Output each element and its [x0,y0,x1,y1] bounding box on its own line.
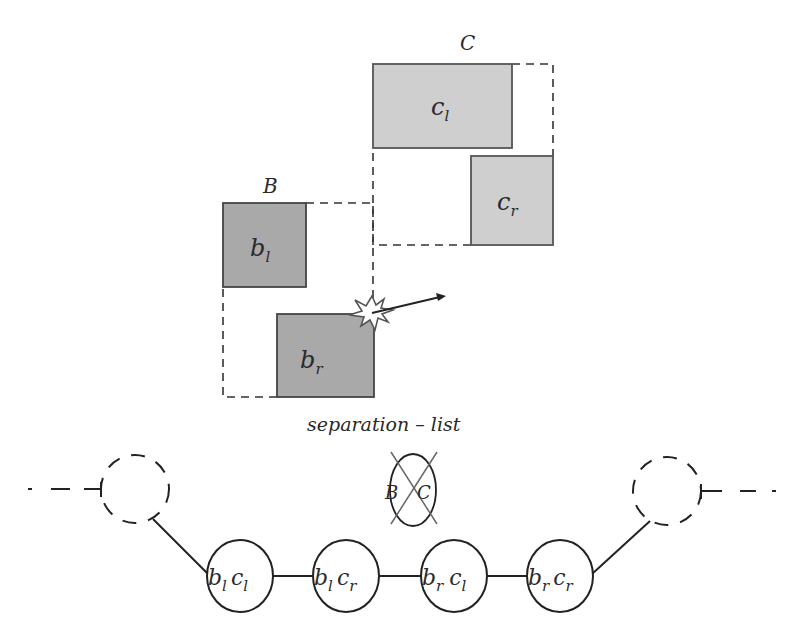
list-node: blcl [207,540,273,612]
right-neighbor-node [633,457,776,525]
removed-node-left-label: B [384,482,398,503]
group-b-label: B [262,174,278,198]
group-c-label: C [460,31,475,55]
separation-list-label: separation – list [307,413,461,435]
box-b-r [277,314,374,397]
removed-node-right-label: C [417,482,431,503]
group-c: C cl cr [373,31,553,245]
list-node: brcl [421,540,487,612]
group-b: B bl br [223,174,374,397]
removed-node-bc: B C [384,452,437,526]
left-neighbor-node [28,455,169,523]
list-node: brcr [527,540,593,612]
box-c-r [471,156,553,245]
list-node: blcr [313,540,379,612]
diagram-canvas: C cl cr B bl br separation – list B C [0,0,800,642]
